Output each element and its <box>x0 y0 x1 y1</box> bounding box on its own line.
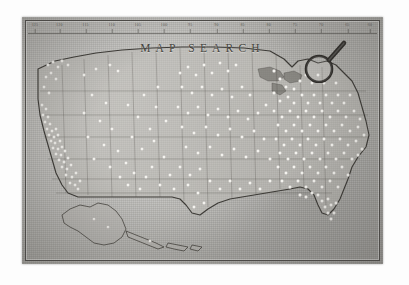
map-plate[interactable]: 125 120 115 110 105 100 95 90 85 80 75 7… <box>22 17 383 264</box>
ruler-tick: 60 <box>368 22 372 27</box>
ruler-tick: 115 <box>82 22 88 27</box>
ruler-tick: 80 <box>267 22 271 27</box>
ruler-tick: 75 <box>293 22 297 27</box>
ruler-tick: 120 <box>56 22 63 27</box>
screenshot-root: 125 120 115 110 105 100 95 90 85 80 75 7… <box>0 0 409 285</box>
ruler-tick: 110 <box>109 22 115 27</box>
ruler-tick: 125 <box>32 22 39 27</box>
ruler-tick: 90 <box>214 22 218 27</box>
aleutian-islands-inset <box>126 231 202 251</box>
ruler-tick: 95 <box>188 22 192 27</box>
ruler-tick: 100 <box>161 22 168 27</box>
ruler-tick: 105 <box>135 22 142 27</box>
ruler-tick: 65 <box>345 22 349 27</box>
alaska-inset-outline <box>62 203 126 245</box>
ruler-tick: 85 <box>240 22 244 27</box>
magnifying-glass-icon[interactable] <box>294 31 356 83</box>
ruler-tick: 70 <box>319 22 323 27</box>
